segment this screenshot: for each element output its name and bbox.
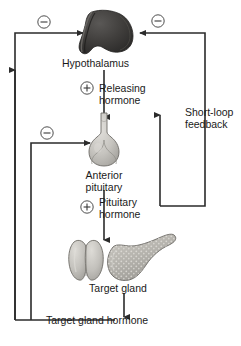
pituitary-hormone-label-line2: hormone xyxy=(99,208,141,220)
anterior-pituitary-illustration xyxy=(89,113,119,166)
anterior-pituitary-label-line1: Anterior xyxy=(86,169,123,181)
sign-plus-pituitary-hormone xyxy=(81,201,93,213)
pancreas-illustration xyxy=(108,234,176,280)
diagram-canvas: Hypothalamus Releasing hormone Anterior … xyxy=(0,0,241,346)
pituitary-hormone-label-line1: Pituitary xyxy=(99,196,138,208)
target-gland-hormone-label: Target gland hormone xyxy=(46,314,148,326)
sign-minus-top-left xyxy=(38,16,50,28)
target-gland-label: Target gland xyxy=(89,282,147,294)
sign-minus-mid-left xyxy=(41,127,53,139)
hypothalamus-label: Hypothalamus xyxy=(62,57,129,69)
endocrine-feedback-diagram: Hypothalamus Releasing hormone Anterior … xyxy=(0,0,241,346)
sign-plus-releasing-hormone xyxy=(81,82,93,94)
short-loop-feedback-label-line2: feedback xyxy=(185,118,228,130)
sign-minus-top-right xyxy=(152,15,164,27)
short-loop-feedback-label-line1: Short-loop xyxy=(185,106,234,118)
releasing-hormone-label-line1: Releasing xyxy=(99,82,146,94)
long-loop-to-pituitary-path xyxy=(31,143,90,320)
hypothalamus-illustration xyxy=(79,10,133,53)
thyroid-illustration xyxy=(69,240,104,280)
anterior-pituitary-label-line2: pituitary xyxy=(86,181,124,193)
releasing-hormone-label-line2: hormone xyxy=(99,94,141,106)
